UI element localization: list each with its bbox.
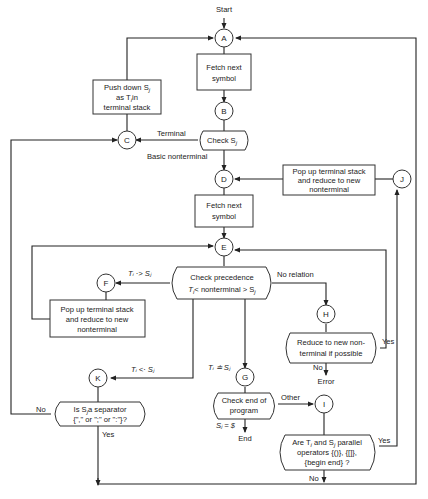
svg-text:Fetch next: Fetch next — [206, 201, 242, 210]
svg-text:J: J — [400, 175, 404, 184]
svg-text:E: E — [221, 243, 226, 252]
start-label: Start — [216, 5, 233, 14]
svg-text:operators {()}, {[]},: operators {()}, {[]}, — [297, 448, 357, 457]
svg-text:Fetch next: Fetch next — [206, 63, 242, 72]
separator-decision-box: Is Sja separator {"," or ";" or ":"}? — [55, 402, 145, 426]
fetch-next-symbol-box-2: Fetch next symbol — [195, 195, 253, 227]
svg-text:as Tiin: as Tiin — [116, 93, 138, 103]
flowchart: A B C D J E F H G K I Fetch nex — [0, 0, 428, 499]
svg-text:Push down Sj: Push down Sj — [104, 83, 151, 93]
connector-c: C — [118, 131, 136, 149]
connector-k: K — [89, 369, 107, 387]
pop-reduce-box-left: Pop up terminal stack and reduce to new … — [50, 300, 145, 337]
parallel-operators-decision-box: Are Ti and Sj parallel operators {()}, {… — [280, 435, 375, 470]
pop-reduce-box-top: Pop up terminal stack and reduce to new … — [283, 165, 375, 195]
label-no-reduce: No — [313, 363, 323, 372]
svg-text:Check end of: Check end of — [222, 396, 268, 405]
edge-prec-h — [272, 283, 326, 305]
svg-text:Pop up terminal stack: Pop up terminal stack — [292, 167, 365, 176]
connector-a: A — [215, 29, 233, 47]
connector-d: D — [215, 170, 233, 188]
svg-text:Ti< nonterminal > Sj: Ti< nonterminal > Sj — [188, 285, 256, 295]
label-other: Other — [281, 393, 300, 402]
svg-text:and reduce to new: and reduce to new — [298, 176, 361, 185]
svg-text:and reduce to new: and reduce to new — [66, 315, 129, 324]
svg-text:{begin end} ?: {begin end} ? — [305, 458, 350, 467]
label-terminal: Terminal — [157, 129, 186, 138]
connector-b: B — [215, 102, 233, 120]
connector-i: I — [315, 395, 333, 413]
reduce-if-possible-box: Reduce to new non- terminal if possible — [286, 333, 376, 363]
svg-text:symbol: symbol — [212, 212, 236, 221]
svg-text:terminal if possible: terminal if possible — [300, 349, 363, 358]
connector-g: G — [236, 368, 254, 386]
svg-text:F: F — [104, 279, 109, 288]
connector-e: E — [215, 238, 233, 256]
label-yes-separator: Yes — [102, 430, 115, 439]
edge-parallel-j — [379, 190, 397, 446]
check-precedence-box: Check precedence Ti< nonterminal > Sj — [172, 267, 271, 299]
svg-text:Reduce to new non-: Reduce to new non- — [297, 338, 365, 347]
svg-text:Is Sja separator: Is Sja separator — [74, 405, 127, 415]
push-down-box: Push down Sj as Tiin terminal stack — [93, 80, 161, 114]
svg-text:Check Sj: Check Sj — [207, 136, 238, 146]
svg-text:symbol: symbol — [212, 74, 236, 83]
svg-text:A: A — [221, 34, 227, 43]
svg-text:G: G — [242, 373, 248, 382]
svg-text:C: C — [124, 136, 130, 145]
label-no-separator: No — [36, 405, 46, 414]
svg-text:program: program — [230, 406, 258, 415]
label-ti-lt-sj: Tᵢ <· Sⱼ — [131, 365, 155, 374]
svg-text:Are Ti and Sj parallel: Are Ti and Sj parallel — [292, 438, 362, 448]
fetch-next-symbol-box-1: Fetch next symbol — [197, 54, 251, 90]
label-ti-gt-sj: Tᵢ ·> Sⱼ — [128, 269, 152, 278]
svg-text:nonterminal: nonterminal — [77, 325, 117, 334]
connector-h: H — [317, 305, 335, 323]
check-sj-box: Check Sj — [200, 131, 248, 150]
label-no-relation: No relation — [277, 270, 314, 279]
label-basic-nonterminal: Basic nonterminal — [147, 152, 208, 161]
svg-text:Check precedence: Check precedence — [190, 273, 253, 282]
connector-j: J — [393, 170, 411, 188]
svg-text:D: D — [221, 175, 227, 184]
label-no-parallel: No — [309, 474, 319, 483]
svg-text:I: I — [323, 400, 325, 409]
svg-text:H: H — [323, 310, 329, 319]
check-end-of-program-box: Check end of program — [214, 393, 275, 419]
label-yes-reduce: Yes — [382, 337, 395, 346]
svg-text:K: K — [95, 374, 101, 383]
svg-text:Pop up terminal stack: Pop up terminal stack — [60, 305, 133, 314]
end-label: End — [238, 434, 252, 443]
label-sj-dollar: Sⱼ = $ — [216, 421, 236, 430]
error-label: Error — [318, 377, 335, 386]
connector-f: F — [97, 274, 115, 292]
label-ti-eq-sj: Tᵢ ≐ Sⱼ — [208, 363, 231, 372]
svg-text:nonterminal: nonterminal — [309, 185, 349, 194]
svg-text:{"," or ";" or ":"}?: {"," or ";" or ":"}? — [73, 415, 127, 424]
label-yes-parallel: Yes — [378, 436, 391, 445]
svg-text:terminal stack: terminal stack — [104, 103, 151, 112]
svg-text:B: B — [221, 107, 226, 116]
